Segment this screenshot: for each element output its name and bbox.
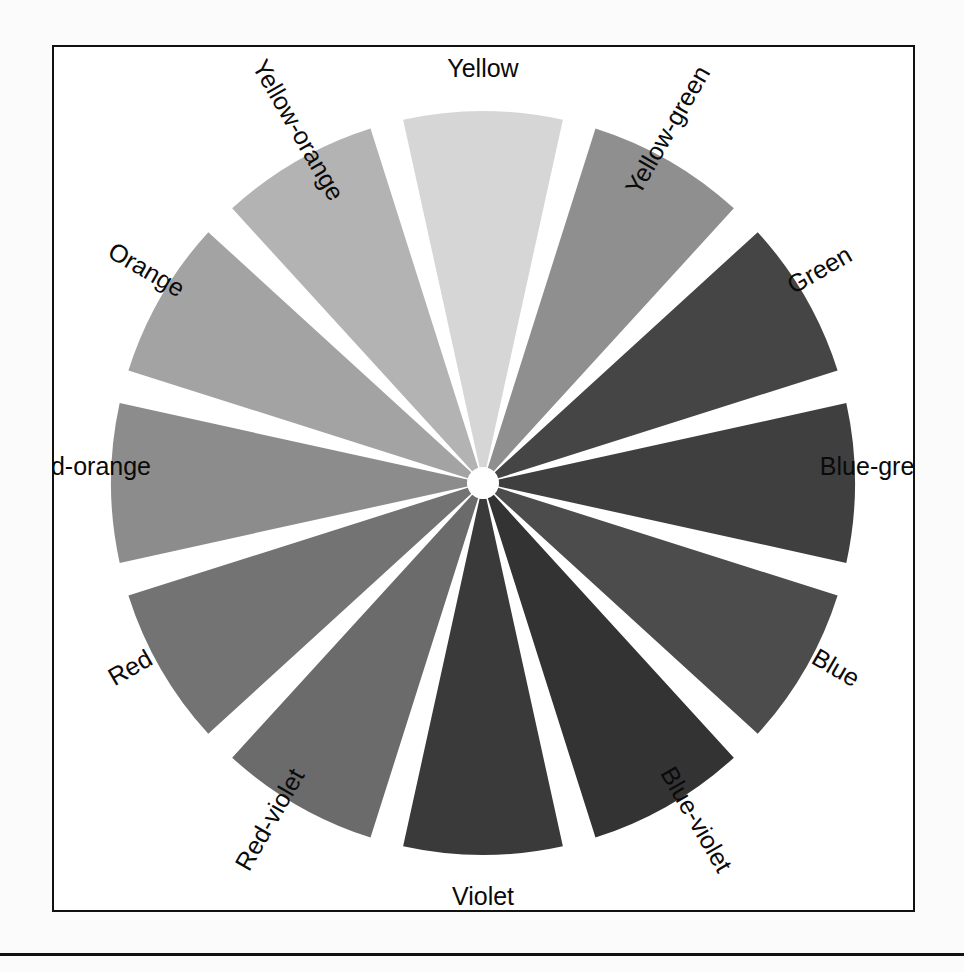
segment-label-orange: Orange [104,236,190,302]
segment-label-blue-green: Blue-green [820,452,915,480]
page-canvas: YellowYellow-greenGreenBlue-greenBlueBlu… [0,0,964,972]
segment-label-red-orange: Red-orange [52,452,151,480]
color-wheel-figure: YellowYellow-greenGreenBlue-greenBlueBlu… [52,45,915,912]
color-wheel-svg: YellowYellow-greenGreenBlue-greenBlueBlu… [52,45,915,912]
segment-label-yellow: Yellow [447,54,519,82]
segment-label-green: Green [782,240,856,299]
segment-label-red: Red [103,644,157,691]
segment-label-violet: Violet [452,882,514,910]
page-bottom-rule [0,953,964,956]
segments-group [111,111,855,855]
segment-label-blue: Blue [808,643,865,692]
